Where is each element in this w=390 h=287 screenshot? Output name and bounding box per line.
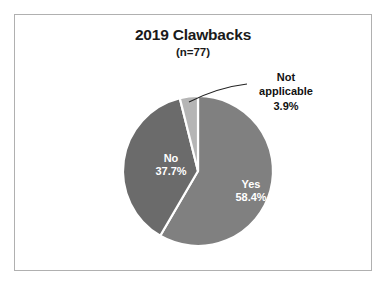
pie-slice-label-yes: Yes 58.4%	[220, 178, 282, 205]
pie-slice-label-not-applicable: Not applicable 3.9%	[243, 70, 329, 113]
pie-chart	[15, 15, 373, 272]
pie-slice-label-no: No 37.7%	[140, 152, 202, 179]
chart-frame: 2019 Clawbacks (n=77) Yes 58.4% No 37.7%…	[14, 14, 372, 271]
